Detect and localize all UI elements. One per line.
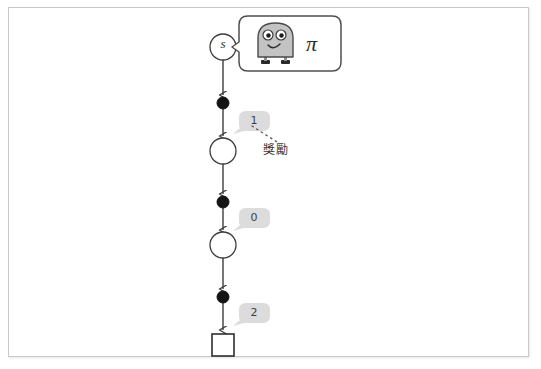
terminal-node[interactable] (212, 334, 234, 356)
robot-pupil-right (279, 33, 283, 37)
reward-badge-0-label: 0 (243, 211, 265, 224)
action-dot-0[interactable] (217, 97, 229, 109)
reward-annotation-label: 獎勵 (263, 140, 289, 157)
state-node-2[interactable] (210, 232, 236, 258)
state-node-1[interactable] (210, 138, 236, 164)
reward-badge-2-label: 2 (243, 306, 265, 319)
policy-symbol-label: π (306, 31, 317, 57)
robot-pupil-left (266, 33, 270, 37)
action-dot-1[interactable] (217, 196, 229, 208)
reward-badge-1-label: 1 (243, 114, 265, 127)
mdp-trajectory-diagram (0, 0, 541, 369)
action-dot-2[interactable] (217, 291, 229, 303)
robot-body (258, 23, 293, 57)
state-start-label: s (213, 36, 233, 52)
